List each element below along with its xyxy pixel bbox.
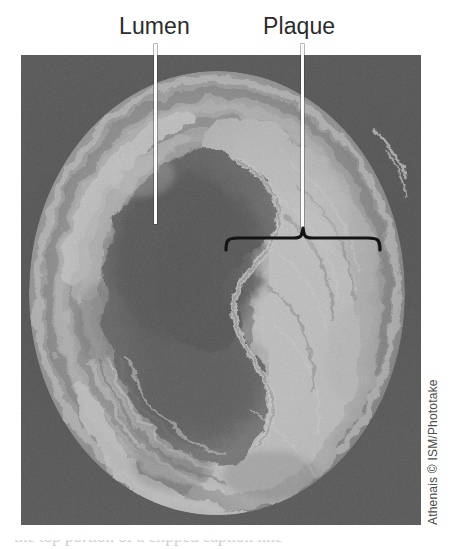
plaque-leader-line [301, 44, 304, 234]
photo-credit-text: Athenais © ISM/Phototake [426, 379, 440, 525]
clipped-caption-sliver: the top portion of a clipped caption lin… [0, 540, 473, 549]
artery-photograph-image [21, 55, 421, 525]
clipped-caption-text: the top portion of a clipped caption lin… [14, 540, 283, 547]
lumen-leader-line [154, 44, 157, 224]
photo-credit: Athenais © ISM/Phototake [421, 55, 445, 525]
artery-photograph [21, 55, 421, 525]
artery-cross-section-figure: Lumen Plaque Athenais © ISM/Phototake th… [0, 0, 473, 549]
plaque-label: Plaque [263, 13, 335, 39]
lumen-label: Lumen [119, 13, 190, 39]
